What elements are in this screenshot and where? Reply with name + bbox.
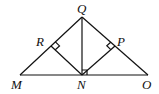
segment-NR <box>51 46 82 75</box>
label-N: N <box>76 77 87 92</box>
geometry-diagram: Q R P M N O <box>0 0 159 94</box>
label-P: P <box>116 34 125 49</box>
label-O: O <box>142 77 152 92</box>
label-Q: Q <box>77 1 87 16</box>
label-R: R <box>35 34 44 49</box>
right-angle-mark-P <box>107 42 111 49</box>
right-angle-mark-R <box>55 42 59 50</box>
label-M: M <box>10 77 23 92</box>
